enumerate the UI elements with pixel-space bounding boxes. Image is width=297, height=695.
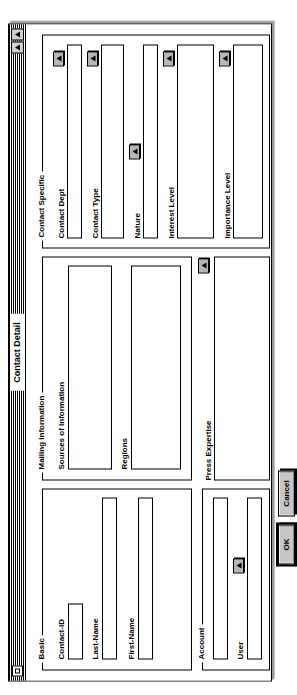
group-basic-label: Basic	[37, 635, 46, 662]
contact-type-popup-button[interactable]	[87, 51, 98, 66]
window-title: Contact Detail	[10, 314, 25, 391]
collapse-box-icon[interactable]	[11, 28, 24, 40]
regions-label: Regions	[120, 437, 129, 469]
importance-level-input[interactable]	[233, 44, 263, 238]
group-basic: Basic Contact-ID Last-Name First-Name	[42, 488, 192, 670]
zoom-boxes	[11, 27, 24, 53]
sources-of-information-label: Sources of Information	[57, 381, 66, 469]
last-name-label: Last-Name	[91, 618, 100, 659]
dialog-content: Basic Contact-ID Last-Name First-Name Ma…	[26, 24, 271, 680]
press-expertise-popup-button[interactable]	[198, 258, 209, 273]
regions-input[interactable]	[131, 265, 181, 469]
title-bar[interactable]: Contact Detail	[9, 24, 26, 680]
last-name-input[interactable]	[102, 497, 117, 659]
interest-level-popup-button[interactable]	[163, 51, 174, 66]
dialog-window: Contact Detail Basic Contact-ID Last-Nam…	[8, 23, 272, 681]
contact-detail-dialog: Contact Detail Basic Contact-ID Last-Nam…	[0, 0, 288, 695]
nature-input[interactable]	[143, 44, 158, 238]
nature-label: Nature	[133, 213, 142, 238]
contact-dept-popup-button[interactable]	[53, 51, 64, 66]
press-expertise-input[interactable]	[214, 256, 270, 480]
first-name-label: First-Name	[127, 617, 136, 659]
ok-button[interactable]: OK	[278, 524, 288, 564]
contact-id-input[interactable]	[68, 603, 83, 659]
importance-level-label: Importance Level	[223, 172, 232, 238]
contact-dept-label: Contact Dept	[57, 188, 66, 238]
user-popup-button[interactable]	[233, 558, 244, 573]
contact-id-label: Contact-ID	[57, 619, 66, 659]
interest-level-label: Interest Level	[167, 186, 176, 238]
group-contact-specific-label: Contact Specific	[37, 171, 46, 240]
contact-type-input[interactable]	[101, 44, 124, 238]
group-account: Account User	[202, 488, 270, 670]
group-account-label: Account	[197, 624, 206, 662]
user-label: User	[236, 641, 245, 659]
press-expertise-label: Press Expertise	[204, 420, 213, 480]
first-name-input[interactable]	[138, 497, 153, 659]
interest-level-input[interactable]	[177, 44, 214, 238]
cancel-button[interactable]: Cancel	[278, 470, 288, 516]
group-contact-specific: Contact Specific Contact Dept Contact Ty…	[42, 34, 270, 248]
importance-level-popup-button[interactable]	[219, 51, 230, 66]
contact-dept-input[interactable]	[67, 44, 82, 238]
nature-popup-button[interactable]	[129, 144, 140, 159]
close-box-icon[interactable]	[12, 665, 23, 676]
group-mailing-information: Mailing Information Sources of Informati…	[42, 256, 192, 480]
contact-type-label: Contact Type	[91, 188, 100, 238]
rotated-scan-stage: Contact Detail Basic Contact-ID Last-Nam…	[0, 0, 288, 695]
account-input[interactable]	[213, 497, 228, 659]
sources-of-information-input[interactable]	[68, 265, 112, 469]
zoom-box-icon[interactable]	[11, 41, 24, 53]
user-input[interactable]	[247, 497, 262, 659]
group-mailing-information-label: Mailing Information	[37, 392, 46, 472]
